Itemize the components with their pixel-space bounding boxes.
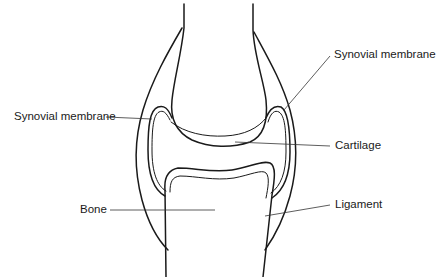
upper-cartilage-line [171,118,266,136]
label-synovial-membrane-left: Synovial membrane [14,111,116,123]
upper-bone-outline [172,4,267,146]
label-bone: Bone [80,204,107,216]
ligament-left [136,28,182,250]
synovial-membrane-right-inner [268,111,286,193]
label-ligament: Ligament [335,199,382,211]
label-cartilage: Cartilage [335,140,381,152]
synovial-membrane-left-inner [152,111,170,191]
leader-cartilage [235,142,330,146]
leader-ligament [265,205,330,216]
leader-synovial-right [284,56,330,110]
lower-bone-outline [165,162,275,277]
joint-diagram: Synovial membrane Synovial membrane Cart… [0,0,436,277]
label-synovial-membrane-right: Synovial membrane [334,49,436,61]
lower-cartilage-line [170,172,268,198]
